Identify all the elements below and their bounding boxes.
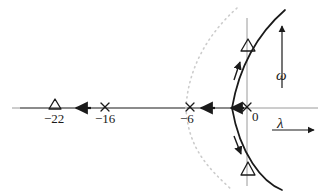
omega-axis-label: ω [276,68,287,83]
plot-canvas [0,0,329,192]
asymptote-guide-curve [186,8,237,190]
root-locus-branch [232,10,285,190]
pole-marker-neg6 [186,103,194,111]
lambda-axis-label: λ [277,116,284,131]
root-locus-figure: −22 −16 −6 0 ω λ [0,0,329,192]
tick-label-neg22: −22 [44,112,64,125]
pole-marker-neg16 [101,103,109,111]
tick-label-neg16: −16 [95,112,115,125]
tick-label-zero: 0 [252,110,259,123]
tick-label-neg6: −6 [180,112,194,125]
